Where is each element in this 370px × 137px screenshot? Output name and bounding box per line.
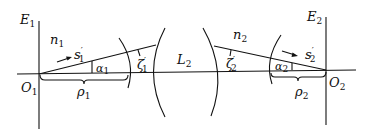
brace-rho1 (40, 75, 128, 84)
label-n1: n1 (50, 32, 64, 49)
arrow-s2-icon (282, 51, 298, 57)
optical-axis (17, 70, 356, 74)
label-rho1: ρ1 (76, 84, 90, 101)
label-n2: n2 (233, 27, 247, 44)
label-alpha2: α2 (275, 60, 288, 74)
brace-rho2 (271, 72, 326, 81)
label-e1: E1 (19, 12, 35, 29)
label-o1: O1 (21, 80, 37, 97)
label-zeta2: ζ′2 (226, 55, 237, 73)
optical-diagram: E1 E2 O1 O2 n1 n2 L2 s′1 s′2 α1 α2 ζ′1 ζ… (0, 0, 370, 137)
label-rho2: ρ2 (294, 84, 308, 101)
label-o2: O2 (329, 75, 345, 92)
label-zeta1: ζ′1 (137, 56, 148, 74)
label-alpha1: α1 (96, 62, 109, 76)
label-e2: E2 (306, 9, 322, 26)
arrow-s1-icon (57, 57, 72, 63)
label-s1: s′1 (74, 46, 84, 64)
zeta1-marker (138, 50, 140, 56)
label-l2: L2 (176, 52, 191, 69)
label-s2: s′2 (305, 46, 315, 64)
